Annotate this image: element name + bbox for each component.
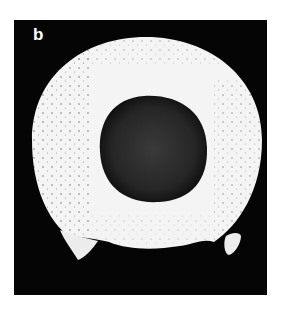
panel-label: b [33,26,43,43]
ring-photo [14,20,267,295]
right-foot [224,233,241,255]
ring-hole [100,96,207,202]
figure-panel: b [14,20,267,295]
